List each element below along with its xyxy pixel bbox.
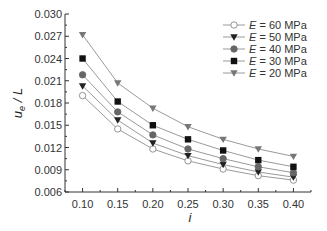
y-tick-label: 0.027	[34, 30, 62, 42]
line-chart: 0.0060.0090.0120.0150.0180.0210.0240.027…	[0, 0, 327, 231]
y-tick-label: 0.015	[34, 119, 62, 131]
legend-item: E = 50 MPa	[223, 31, 308, 43]
data-point	[185, 136, 191, 142]
legend-label: E = 40 MPa	[249, 43, 308, 55]
data-point	[231, 58, 237, 64]
data-point	[150, 122, 156, 128]
data-point	[185, 146, 191, 152]
y-tick-label: 0.012	[34, 142, 62, 154]
legend-label: E = 30 MPa	[249, 55, 308, 67]
data-point	[150, 132, 156, 138]
data-point	[290, 164, 296, 170]
series-50-mpa	[79, 83, 297, 181]
legend: E = 60 MPaE = 50 MPaE = 40 MPaE = 30 MPa…	[223, 19, 308, 79]
data-point	[220, 155, 226, 161]
data-point	[290, 170, 296, 176]
y-tick-label: 0.006	[34, 186, 62, 198]
data-point	[255, 157, 261, 163]
x-tick-label: 0.40	[283, 198, 304, 210]
data-point	[231, 22, 237, 28]
data-point	[79, 92, 85, 98]
y-tick-label: 0.018	[34, 97, 62, 109]
x-tick-label: 0.10	[72, 198, 93, 210]
legend-item: E = 20 MPa	[223, 67, 308, 79]
x-tick-label: 0.20	[142, 198, 163, 210]
data-point	[79, 72, 85, 78]
legend-label: E = 60 MPa	[249, 19, 308, 31]
legend-label: E = 20 MPa	[249, 67, 308, 79]
data-point	[255, 164, 261, 170]
data-point	[79, 55, 85, 61]
y-tick-label: 0.024	[34, 53, 62, 65]
y-tick-label: 0.021	[34, 75, 62, 87]
y-axis-label: ue / L	[10, 88, 27, 118]
x-tick-label: 0.30	[212, 198, 233, 210]
data-point	[115, 109, 121, 115]
data-point	[115, 126, 121, 132]
x-tick-label: 0.15	[107, 198, 128, 210]
data-point	[231, 46, 237, 52]
data-point	[290, 154, 297, 160]
x-tick-label: 0.25	[177, 198, 198, 210]
data-point	[149, 105, 156, 111]
data-point	[220, 147, 226, 153]
y-tick-label: 0.009	[34, 164, 62, 176]
x-axis-label: i	[189, 210, 193, 225]
data-point	[114, 117, 121, 123]
y-tick-label: 0.030	[34, 8, 62, 20]
data-point	[115, 98, 121, 104]
legend-item: E = 40 MPa	[223, 43, 308, 55]
legend-item: E = 60 MPa	[223, 19, 308, 31]
legend-label: E = 50 MPa	[249, 31, 308, 43]
x-tick-label: 0.35	[248, 198, 269, 210]
data-point	[114, 80, 121, 86]
legend-item: E = 30 MPa	[223, 55, 308, 67]
